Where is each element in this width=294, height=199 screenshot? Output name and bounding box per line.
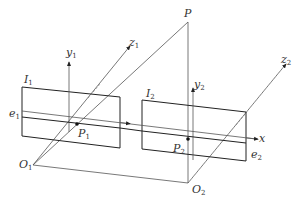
x-axis: [22, 111, 256, 139]
label-o1: O1: [19, 158, 33, 172]
label-z1: z1: [128, 36, 139, 50]
image-plane-i2: [142, 100, 246, 161]
baseline: [33, 165, 188, 183]
epipolar-link: [120, 128, 142, 131]
label-y1: y1: [65, 46, 77, 60]
label-o2: O2: [192, 183, 206, 197]
point-p1: [75, 122, 79, 126]
label-p: P: [183, 7, 192, 20]
point-p2: [186, 137, 190, 141]
x-axis-arrow-end: [246, 138, 258, 139]
label-y2: y2: [193, 78, 205, 92]
label-i2: I2: [145, 87, 155, 101]
image-plane-i1: [22, 87, 120, 148]
label-p2: P2: [172, 142, 185, 156]
epipolar-diagram: P y1 z1 I1 e1 P1 O1 y2 z2 I2 e2 P2 O2 x: [0, 0, 294, 199]
epipolar-line-e2: [142, 131, 246, 143]
ray-p-o1: [33, 22, 188, 165]
label-e1: e1: [9, 107, 20, 121]
label-x: x: [259, 132, 266, 145]
label-e2: e2: [251, 148, 262, 162]
label-z2: z2: [280, 53, 291, 67]
label-p1: P1: [77, 127, 90, 141]
label-i1: I1: [23, 73, 33, 87]
